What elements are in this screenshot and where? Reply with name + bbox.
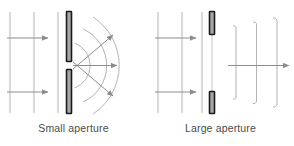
barrier-large-aperture xyxy=(210,12,215,114)
barrier-bar-top xyxy=(210,12,215,35)
barrier-bar-top xyxy=(67,12,72,62)
wavefront-line-curved xyxy=(233,26,236,99)
panel-large-aperture xyxy=(155,12,289,114)
caption-small-aperture: Small aperture xyxy=(0,122,147,134)
barrier-bar-bottom xyxy=(210,92,215,114)
outgoing-wavefronts-large xyxy=(233,18,277,107)
barrier-bar-bottom xyxy=(67,70,72,114)
incoming-wavefronts-small xyxy=(10,12,58,113)
panel-small-aperture xyxy=(7,12,119,115)
barrier-small-aperture xyxy=(67,12,72,114)
incoming-arrows-large xyxy=(155,38,196,92)
diffraction-figure: Small aperture Large aperture xyxy=(0,0,294,146)
outgoing-arrows-small xyxy=(73,35,117,96)
incoming-arrows-small xyxy=(7,38,48,92)
wavefront-line-curved xyxy=(253,22,257,104)
caption-large-aperture: Large aperture xyxy=(147,122,294,134)
wavefront-line-curved xyxy=(273,18,277,107)
incoming-wavefronts-large xyxy=(158,12,202,113)
